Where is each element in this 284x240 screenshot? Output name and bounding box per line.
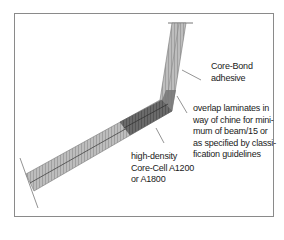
leader-core-bond xyxy=(182,70,201,80)
label-core-bond-adhesive: Core-Bond adhesive xyxy=(211,61,253,84)
label-overlap-laminates: overlap laminates in way of chine for mi… xyxy=(193,103,276,161)
label-high-density-core: high-density Core-Cell A1200 or A1800 xyxy=(131,151,194,186)
leader-overlap xyxy=(177,96,187,113)
leader-high-density xyxy=(156,128,164,143)
